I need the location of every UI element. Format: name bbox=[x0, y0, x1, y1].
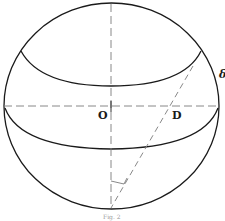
delta-label: δ bbox=[218, 68, 225, 81]
center-label-o: O bbox=[98, 109, 108, 122]
lower-latitude-circle bbox=[5, 108, 218, 149]
sphere-diagram: O D δ Fig. 2 bbox=[0, 0, 225, 221]
point-label-d: D bbox=[172, 109, 182, 122]
right-angle-marker bbox=[111, 178, 127, 184]
diagonal-dashed-line bbox=[111, 66, 193, 208]
figure-caption: Fig. 2 bbox=[103, 213, 121, 221]
